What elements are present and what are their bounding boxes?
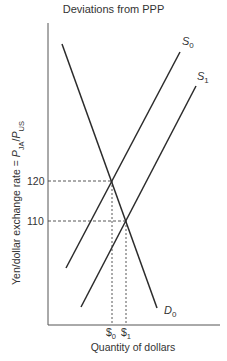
label-s0: S0 (182, 35, 194, 50)
y-axis-label: Yen/dollar exchange rate = PJA/PUS (10, 121, 25, 285)
x-axis-label: Quantity of dollars (48, 341, 218, 353)
y-tick-110: 110 (27, 215, 44, 227)
x-tick-dollar1: $1 (121, 326, 131, 341)
label-s1: S1 (197, 70, 209, 85)
x-tick-dollar0: $0 (106, 326, 116, 341)
curve-s1 (81, 86, 196, 307)
curve-d0 (62, 44, 157, 308)
y-tick-120: 120 (27, 175, 45, 187)
curve-s0 (66, 52, 180, 268)
label-d0: D0 (164, 304, 176, 319)
